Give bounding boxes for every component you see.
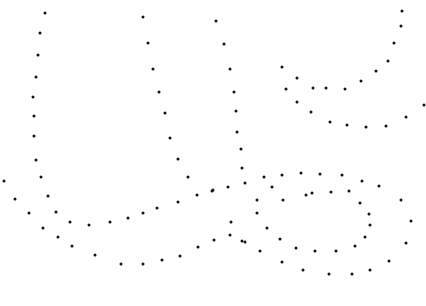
- dot-top-right-cup-upper: [387, 60, 390, 63]
- dot-loop-outer: [281, 174, 284, 177]
- dot-left-lower-sweep: [57, 236, 60, 239]
- dot-left-u-outer: [40, 176, 43, 179]
- dot-top-right-cup-upper: [325, 87, 328, 90]
- dot-left-u-outer: [88, 224, 91, 227]
- dot-top-right-cup-lower: [296, 101, 299, 104]
- dot-left-lower-sweep: [266, 227, 269, 230]
- dot-loop-outer: [341, 174, 344, 177]
- dot-top-right-cup-lower: [310, 111, 313, 114]
- dot-loop-outer: [361, 180, 364, 183]
- dot-top-right-cup-lower: [346, 124, 349, 127]
- dot-loop-outer: [369, 269, 372, 272]
- dot-top-right-cup-upper: [344, 88, 347, 91]
- dot-left-lower-sweep: [142, 263, 145, 266]
- dot-middle-descender: [241, 167, 244, 170]
- dot-left-u-inner-right: [169, 137, 172, 140]
- dot-middle-descender: [233, 91, 236, 94]
- dot-left-lower-sweep: [213, 239, 216, 242]
- dot-left-u-outer: [177, 201, 180, 204]
- dot-loop-inner: [368, 213, 371, 216]
- dot-left-u-outer: [69, 221, 72, 224]
- dot-top-right-cup-upper: [393, 42, 396, 45]
- dot-loop-inner: [279, 238, 282, 241]
- dot-top-right-cup-upper: [312, 87, 315, 90]
- dot-loop-outer: [241, 240, 244, 243]
- dot-top-right-cup-upper: [401, 10, 404, 13]
- dot-loop-inner: [369, 224, 372, 227]
- dot-loop-outer: [212, 189, 215, 192]
- dot-left-u-inner-right: [152, 68, 155, 71]
- dot-loop-inner: [311, 192, 314, 195]
- dot-left-u-inner-right: [187, 176, 190, 179]
- dot-middle-descender: [229, 68, 232, 71]
- dot-left-u-outer: [35, 76, 38, 79]
- dot-loop-outer: [351, 273, 354, 276]
- dot-left-u-outer: [32, 96, 35, 99]
- dot-loop-inner: [295, 247, 298, 250]
- dot-left-u-outer: [196, 194, 199, 197]
- dot-loop-inner: [348, 190, 351, 193]
- dot-loop-inner: [330, 191, 333, 194]
- dot-left-lower-sweep: [14, 198, 17, 201]
- dot-left-lower-sweep: [3, 180, 6, 183]
- dot-left-lower-sweep: [230, 221, 233, 224]
- dot-loop-outer: [410, 220, 413, 223]
- dot-left-lower-sweep: [179, 255, 182, 258]
- dot-left-u-outer: [55, 211, 58, 214]
- dot-middle-descender: [215, 20, 218, 23]
- dot-loop-inner: [256, 199, 259, 202]
- dot-left-u-outer: [39, 32, 42, 35]
- dot-loop-outer: [259, 250, 262, 253]
- dot-left-u-outer: [44, 12, 47, 15]
- dot-loop-inner: [305, 194, 308, 197]
- dot-middle-descender: [235, 110, 238, 113]
- dot-top-right-cup-upper: [375, 70, 378, 73]
- dot-left-u-outer: [127, 217, 130, 220]
- dot-top-right-cup-lower: [365, 126, 368, 129]
- dot-left-lower-sweep: [71, 245, 74, 248]
- dot-left-u-outer: [35, 159, 38, 162]
- dot-loop-inner: [314, 250, 317, 253]
- dot-left-lower-sweep: [94, 254, 97, 257]
- dot-loop-outer: [405, 242, 408, 245]
- dot-left-u-outer: [142, 212, 145, 215]
- dot-loop-inner: [359, 202, 362, 205]
- dot-left-lower-sweep: [161, 259, 164, 262]
- dot-left-u-inner-right: [158, 91, 161, 94]
- dot-left-u-outer: [47, 195, 50, 198]
- dot-loop-outer: [300, 172, 303, 175]
- dot-loop-inner: [354, 245, 357, 248]
- dot-middle-descender: [236, 131, 239, 134]
- dot-top-right-cup-lower: [385, 125, 388, 128]
- dot-loop-outer: [281, 261, 284, 264]
- dot-loop-outer: [319, 173, 322, 176]
- dot-loop-outer: [328, 273, 331, 276]
- dot-top-right-cup-upper: [296, 77, 299, 80]
- dot-top-right-cup-lower: [423, 104, 426, 107]
- dot-loop-outer: [302, 269, 305, 272]
- dot-loop-outer: [378, 185, 381, 188]
- dot-left-lower-sweep: [271, 186, 274, 189]
- dot-left-lower-sweep: [120, 263, 123, 266]
- dot-left-u-outer: [33, 135, 36, 138]
- dot-loop-outer: [227, 186, 230, 189]
- dotted-curves-canvas: [0, 0, 426, 306]
- dot-top-right-cup-upper: [360, 80, 363, 83]
- dot-left-lower-sweep: [28, 212, 31, 215]
- dot-left-lower-sweep: [42, 227, 45, 230]
- dot-loop-inner: [364, 236, 367, 239]
- dot-left-lower-sweep: [256, 212, 259, 215]
- dot-left-u-inner-right: [142, 16, 145, 19]
- dot-loop-inner: [282, 199, 285, 202]
- dot-middle-descender: [223, 43, 226, 46]
- dot-left-u-outer: [37, 54, 40, 57]
- dot-loop-inner: [335, 250, 338, 253]
- dot-left-lower-sweep: [197, 246, 200, 249]
- dot-loop-outer: [229, 234, 232, 237]
- dot-left-u-outer: [156, 207, 159, 210]
- dot-middle-descender: [240, 148, 243, 151]
- dot-left-lower-sweep: [244, 241, 247, 244]
- dot-left-u-inner-right: [164, 112, 167, 115]
- dot-left-u-outer: [109, 221, 112, 224]
- dot-top-right-cup-upper: [281, 66, 284, 69]
